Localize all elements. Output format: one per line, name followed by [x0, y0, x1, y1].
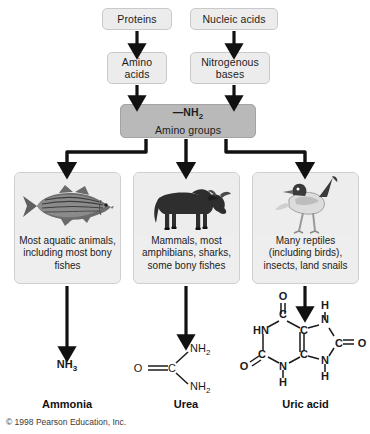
uric-atom-H-bottom-right: H — [321, 370, 329, 382]
urea-atom-O: O — [134, 362, 143, 374]
urea-atom-NH2-bottom: NH2 — [190, 380, 211, 395]
uric-atom-C2: C — [258, 348, 266, 360]
uric-atom-C8: C — [335, 337, 343, 349]
uric-atom-N7: N — [321, 313, 329, 325]
uric-acid-atom-labels: O C HN C H N C O C O C N H N H — [240, 290, 367, 388]
label-uric-acid: Uric acid — [258, 398, 353, 410]
arrow-groups-to-reptiles — [226, 139, 305, 166]
label-urea: Urea — [146, 398, 226, 410]
label-ammonia: Ammonia — [22, 398, 112, 410]
diagram-canvas: Proteins Nucleic acids Amino acids Nitro… — [0, 0, 370, 434]
uric-atom-H-top: H — [321, 299, 329, 311]
uric-atom-N1: HN — [253, 324, 269, 336]
uric-atom-N9: N — [321, 354, 329, 366]
uric-atom-C5: C — [300, 324, 308, 336]
ammonia-formula: NH3 — [37, 358, 97, 373]
uric-atom-O-right: O — [358, 337, 367, 349]
uric-atom-N3: N — [279, 360, 287, 372]
uric-atom-O-left: O — [240, 360, 249, 372]
uric-atom-C4: C — [300, 348, 308, 360]
urea-atom-C: C — [168, 362, 176, 374]
uric-atom-H-bottom: H — [279, 376, 287, 388]
urea-atom-NH2-top: NH2 — [190, 342, 211, 357]
urea-atom-labels: O C NH2 NH2 — [134, 342, 211, 395]
uric-atom-C6: C — [279, 308, 287, 320]
arrow-groups-to-aquatic — [67, 139, 146, 166]
copyright-notice: © 1998 Pearson Education, Inc. — [6, 417, 126, 427]
uric-atom-O-top: O — [279, 290, 288, 302]
